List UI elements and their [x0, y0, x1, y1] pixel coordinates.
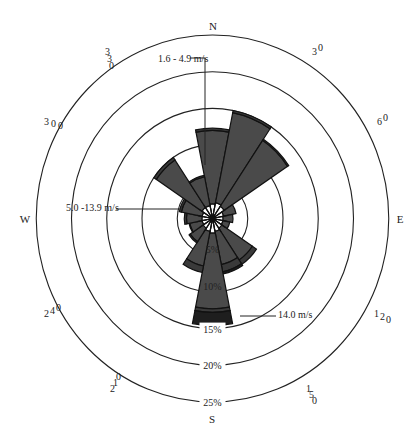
- degree-label-330: 330: [105, 46, 114, 71]
- wind-rose-chart: 5%10%15%20%25% 1.6 - 4.9 m/s5.0 -13.9 m/…: [0, 0, 419, 428]
- degree-label-210: 210: [110, 371, 121, 394]
- degree-digit: 2: [44, 308, 49, 319]
- degree-digit: 0: [51, 118, 56, 129]
- degree-digit: 0: [383, 112, 388, 123]
- ring-label-10pct: 10%: [203, 281, 221, 292]
- ring-label-25pct: 25%: [203, 397, 221, 408]
- degree-digit: 1: [374, 308, 379, 319]
- degree-label-150: 150: [306, 383, 317, 406]
- cardinal-n: N: [209, 20, 217, 32]
- callout-label: 14.0 m/s: [278, 309, 313, 320]
- center-dot: [210, 216, 216, 222]
- ring-label-15pct: 15%: [203, 324, 221, 335]
- degree-digit: 0: [56, 302, 61, 313]
- degree-digit: 0: [58, 120, 63, 131]
- degree-digit: 0: [318, 42, 323, 53]
- degree-label-60: 60: [377, 112, 388, 127]
- ring-label-5pct: 5%: [206, 244, 219, 255]
- cardinal-e: E: [397, 213, 404, 225]
- degree-digit: 3: [312, 46, 317, 57]
- degree-digit: 0: [116, 371, 121, 382]
- callout-label: 5.0 -13.9 m/s: [66, 202, 119, 213]
- callout-label: 1.6 - 4.9 m/s: [158, 53, 208, 64]
- degree-digit: 4: [50, 305, 55, 316]
- wind-petals: [154, 111, 289, 326]
- degree-digit: 0: [312, 395, 317, 406]
- degree-digit: 3: [44, 116, 49, 127]
- cardinal-w: W: [20, 213, 31, 225]
- degree-label-30: 30: [312, 42, 323, 57]
- cardinal-s: S: [209, 413, 215, 425]
- degree-label-300: 300: [44, 116, 63, 131]
- petal-w-bin2: [184, 213, 187, 224]
- ring-label-20pct: 20%: [203, 360, 221, 371]
- degree-digit: 0: [386, 314, 391, 325]
- degree-digit: 6: [377, 116, 382, 127]
- degree-digit: 2: [380, 311, 385, 322]
- degree-label-120: 120: [374, 308, 391, 325]
- degree-label-240: 240: [44, 302, 61, 319]
- degree-digit: 0: [109, 60, 114, 71]
